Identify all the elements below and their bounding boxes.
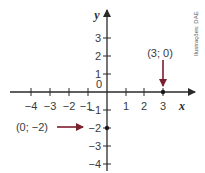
x-tick-label: −2 bbox=[63, 100, 76, 112]
cartesian-plane: −4 −3 −2 −1 1 2 3 3 2 1 −1 −2 −3 −4 0 x … bbox=[0, 0, 205, 173]
x-tick-label: 2 bbox=[141, 100, 147, 112]
x-tick-label: −4 bbox=[25, 100, 38, 112]
y-tick-label: −4 bbox=[88, 158, 101, 170]
point-3-0 bbox=[161, 90, 165, 94]
y-axis-label: y bbox=[92, 8, 100, 22]
y-tick-label: 2 bbox=[95, 50, 101, 62]
y-tick-label: −1 bbox=[88, 104, 101, 116]
y-tick-label: −3 bbox=[88, 140, 101, 152]
y-tick-label: 3 bbox=[95, 32, 101, 44]
x-tick-label: 3 bbox=[160, 100, 166, 112]
x-axis-label: x bbox=[178, 99, 185, 113]
image-credit: Ilustrações: DAE bbox=[193, 11, 199, 56]
y-tick-label: −2 bbox=[88, 122, 101, 134]
origin-label: 0 bbox=[96, 78, 102, 90]
x-tick-label: −3 bbox=[44, 100, 57, 112]
point-label-3-0: (3; 0) bbox=[147, 47, 173, 59]
point-label-0-neg2: (0; −2) bbox=[16, 121, 48, 133]
point-0-neg2 bbox=[105, 126, 109, 130]
x-tick-label: 1 bbox=[123, 100, 129, 112]
